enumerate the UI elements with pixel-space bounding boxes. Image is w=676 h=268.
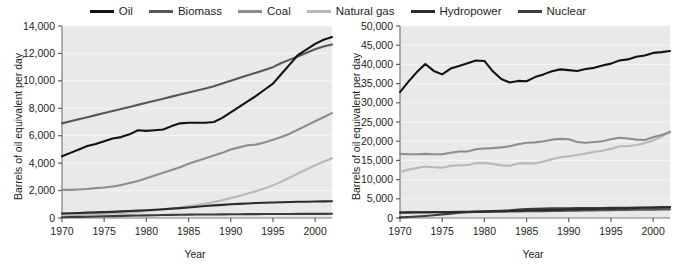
x-tick-label: 1990 [219, 225, 243, 237]
legend-line-swatch-icon [90, 10, 114, 13]
x-tick-label: 2000 [303, 225, 327, 237]
legend-item-biomass[interactable]: Biomass [149, 5, 222, 17]
right-x-axis-label: Year [398, 248, 668, 260]
left-x-axis-label: Year [60, 248, 330, 260]
y-tick-label: 8,000 [29, 102, 55, 114]
y-tick-label: 4,000 [29, 157, 55, 169]
legend-item-oil[interactable]: Oil [90, 5, 133, 17]
dual-line-chart-figure: OilBiomassCoalNatural gasHydropowerNucle… [0, 0, 676, 268]
legend-item-label: Hydropower [440, 5, 502, 17]
x-tick-label: 1980 [135, 225, 159, 237]
x-tick-label: 1975 [93, 225, 117, 237]
y-tick-label: 6,000 [29, 129, 55, 141]
legend-item-label: Biomass [178, 5, 222, 17]
legend-item-nuclear[interactable]: Nuclear [518, 5, 587, 17]
y-tick-label: 30,000 [361, 96, 393, 108]
y-tick-label: 50,000 [361, 20, 393, 32]
x-tick-label: 2000 [641, 225, 665, 237]
legend-item-coal[interactable]: Coal [238, 5, 291, 17]
chart-panel-right: 05,00010,00015,00020,00025,00030,00035,0… [338, 20, 676, 268]
legend-line-swatch-icon [149, 10, 173, 13]
y-tick-label: 5,000 [367, 192, 393, 204]
x-tick-label: 1995 [261, 225, 285, 237]
right-y-axis-label: Barrels of oil equivalent per day [350, 53, 362, 200]
legend-line-swatch-icon [518, 10, 542, 13]
y-tick-label: 0 [387, 212, 393, 224]
right-chart-plot: 05,00010,00015,00020,00025,00030,00035,0… [338, 20, 676, 268]
y-tick-label: 14,000 [23, 20, 55, 32]
x-tick-label: 1985 [515, 225, 539, 237]
legend-line-swatch-icon [411, 10, 435, 13]
left-chart-plot: 02,0004,0006,0008,00010,00012,00014,0001… [0, 20, 338, 268]
x-tick-label: 1975 [431, 225, 455, 237]
x-tick-label: 1970 [388, 225, 412, 237]
legend-item-label: Nuclear [547, 5, 587, 17]
legend-item-hydropower[interactable]: Hydropower [411, 5, 502, 17]
y-tick-label: 10,000 [361, 173, 393, 185]
y-tick-label: 25,000 [361, 116, 393, 128]
y-tick-label: 0 [49, 212, 55, 224]
y-tick-label: 10,000 [23, 74, 55, 86]
y-tick-label: 45,000 [361, 39, 393, 51]
x-tick-label: 1985 [177, 225, 201, 237]
x-tick-label: 1995 [599, 225, 623, 237]
chart-legend: OilBiomassCoalNatural gasHydropowerNucle… [0, 2, 676, 20]
x-tick-label: 1980 [473, 225, 497, 237]
legend-line-swatch-icon [238, 10, 262, 13]
legend-item-natural-gas[interactable]: Natural gas [307, 5, 395, 17]
legend-item-label: Natural gas [336, 5, 395, 17]
y-tick-label: 20,000 [361, 135, 393, 147]
chart-panel-left: 02,0004,0006,0008,00010,00012,00014,0001… [0, 20, 338, 268]
y-tick-label: 2,000 [29, 184, 55, 196]
legend-line-swatch-icon [307, 10, 331, 13]
legend-item-label: Coal [267, 5, 291, 17]
x-tick-label: 1990 [557, 225, 581, 237]
y-tick-label: 12,000 [23, 47, 55, 59]
x-tick-label: 1970 [50, 225, 74, 237]
legend-item-label: Oil [119, 5, 133, 17]
y-tick-label: 35,000 [361, 77, 393, 89]
left-y-axis-label: Barrels of oil equivalent per day [12, 53, 24, 200]
y-tick-label: 15,000 [361, 154, 393, 166]
y-tick-label: 40,000 [361, 58, 393, 70]
